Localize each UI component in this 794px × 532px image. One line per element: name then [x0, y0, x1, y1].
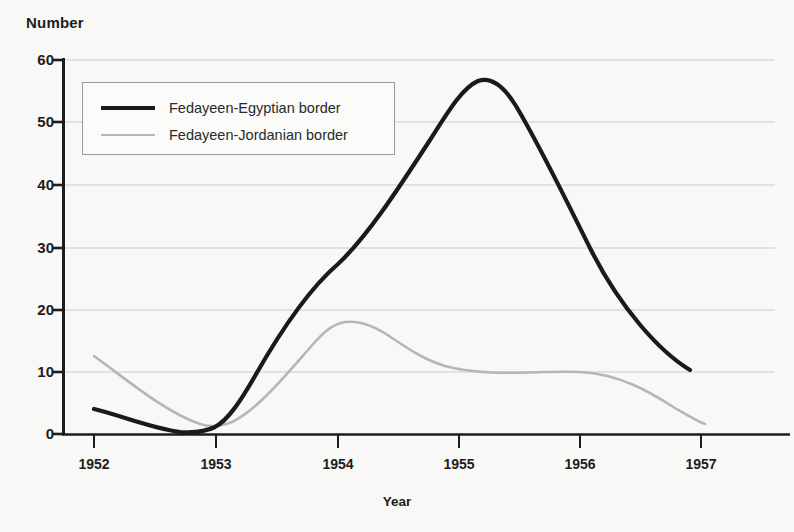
x-tick-label-1952: 1952: [59, 456, 129, 472]
legend-entry-fedayeen-egyptian-border: Fedayeen-Egyptian border: [101, 96, 341, 120]
legend-line-swatch-egyptian: [101, 106, 155, 110]
legend-entry-fedayeen-jordanian-border: Fedayeen-Jordanian border: [101, 123, 348, 147]
chart-legend: Fedayeen-Egyptian border Fedayeen-Jordan…: [82, 82, 395, 155]
line-chart-figure: Number 60 50 40 30 20 10 0: [0, 0, 794, 532]
legend-label-jordanian: Fedayeen-Jordanian border: [169, 127, 348, 143]
x-tick-label-1957: 1957: [666, 456, 736, 472]
x-tick-label-1953: 1953: [181, 456, 251, 472]
series-line-fedayeen-jordanian-border: [94, 322, 705, 426]
legend-line-swatch-jordanian: [101, 134, 155, 136]
x-axis-ticks: [94, 434, 701, 448]
plot-area: [0, 0, 794, 532]
legend-label-egyptian: Fedayeen-Egyptian border: [169, 100, 341, 116]
x-tick-label-1954: 1954: [303, 456, 373, 472]
x-axis-title: Year: [0, 494, 794, 509]
x-tick-label-1956: 1956: [545, 456, 615, 472]
x-tick-label-1955: 1955: [424, 456, 494, 472]
